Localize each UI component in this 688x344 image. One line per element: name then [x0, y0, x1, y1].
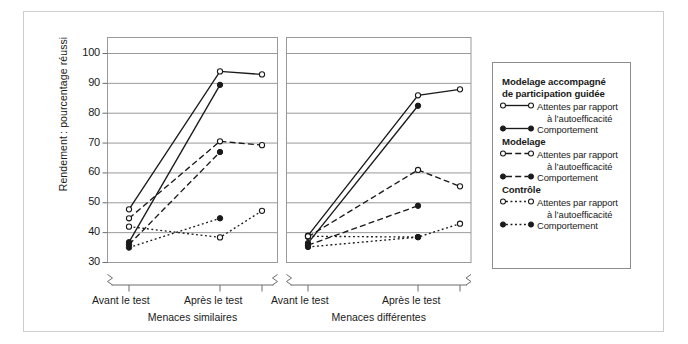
- legend-group-title-1-line2: de participation guidée: [502, 88, 605, 100]
- legend-entry-label-2-2: Comportement: [537, 172, 598, 183]
- legend-group-title-3: Contrôle: [502, 184, 541, 196]
- legend-entry-label-2-1-line2: à l’autoefficacité: [547, 161, 612, 172]
- figure-container: Rendement : pourcentage réussi 100908070…: [0, 0, 688, 344]
- legend-group-title-1: Modelage accompagné: [502, 76, 606, 88]
- legend-entry-label-3-1: Attentes par rapport: [537, 197, 618, 208]
- legend-entry-label-1-1-line2: à l’autoefficacité: [547, 113, 612, 124]
- legend-entry-label-3-1-line2: à l’autoefficacité: [547, 209, 612, 220]
- legend: Modelage accompagnéde participation guid…: [492, 62, 631, 269]
- legend-entry-label-1-1: Attentes par rapport: [537, 101, 618, 112]
- legend-entry-label-3-2: Comportement: [537, 220, 598, 231]
- legend-group-title-2: Modelage: [502, 136, 545, 148]
- legend-entry-label-2-1: Attentes par rapport: [537, 149, 618, 160]
- legend-entry-label-1-2: Comportement: [537, 124, 598, 135]
